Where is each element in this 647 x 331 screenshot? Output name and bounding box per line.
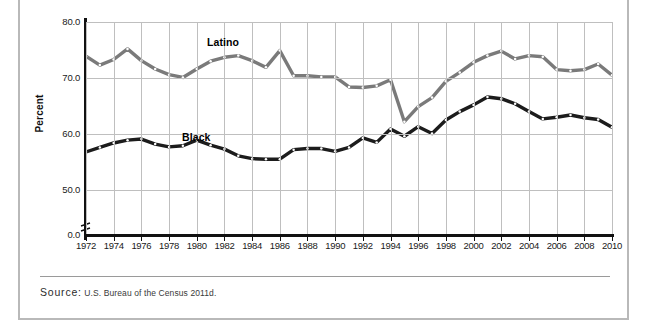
gridline-horizontal [86, 78, 612, 79]
gridline-vertical [501, 22, 502, 234]
x-tick-mark [224, 237, 225, 241]
data-point-marker [542, 118, 545, 121]
data-point-marker [348, 86, 351, 89]
gridline-vertical [224, 22, 225, 234]
x-tick-mark [335, 237, 336, 241]
x-tick-mark [584, 237, 585, 241]
data-point-marker [126, 139, 129, 142]
data-point-marker [486, 54, 489, 57]
gridline-horizontal [86, 190, 612, 191]
gridline-vertical [612, 22, 613, 234]
series-layer [86, 22, 612, 234]
figure-container: Percent 80.070.060.050.00.0 197219741976… [0, 0, 647, 331]
x-tick-mark [418, 237, 419, 241]
y-tick-label: 70.0 [40, 72, 80, 83]
x-tick-mark [529, 237, 530, 241]
source-divider [40, 276, 610, 277]
figure-frame-left [18, 0, 20, 320]
x-tick-mark [280, 237, 281, 241]
data-point-marker [431, 96, 434, 99]
x-tick-mark [141, 237, 142, 241]
source-citation: U.S. Bureau of the Census 2011d. [84, 288, 216, 298]
data-point-marker [99, 146, 102, 149]
x-tick-mark [197, 237, 198, 241]
x-tick-mark [474, 237, 475, 241]
data-point-marker [154, 68, 157, 71]
data-point-marker [375, 141, 378, 144]
gridline-vertical [86, 22, 87, 234]
figure-frame-bottom [18, 318, 629, 320]
gridline-vertical [391, 22, 392, 234]
data-point-marker [597, 63, 600, 66]
gridline-vertical [474, 22, 475, 234]
data-point-marker [569, 114, 572, 117]
x-tick-label: 2010 [590, 240, 634, 251]
x-tick-mark [446, 237, 447, 241]
data-point-marker [126, 48, 129, 51]
x-tick-mark [169, 237, 170, 241]
data-point-marker [182, 145, 185, 148]
data-point-marker [154, 143, 157, 146]
data-point-marker [209, 144, 212, 147]
figure-frame-right [627, 0, 629, 320]
gridline-vertical [363, 22, 364, 234]
data-point-marker [237, 54, 240, 57]
source-label: Source: [40, 286, 82, 298]
gridline-vertical [418, 22, 419, 234]
data-point-marker [292, 148, 295, 151]
x-tick-mark [307, 237, 308, 241]
gridline-horizontal [86, 22, 612, 23]
gridline-vertical [114, 22, 115, 234]
x-tick-mark [501, 237, 502, 241]
data-point-marker [265, 158, 268, 161]
gridline-vertical [446, 22, 447, 234]
x-tick-mark [114, 237, 115, 241]
data-point-marker [292, 75, 295, 78]
x-axis-line [84, 234, 614, 237]
x-tick-mark [391, 237, 392, 241]
gridline-vertical [584, 22, 585, 234]
data-point-marker [542, 55, 545, 58]
gridline-vertical [335, 22, 336, 234]
data-point-marker [514, 58, 517, 61]
data-point-marker [403, 135, 406, 138]
gridline-vertical [252, 22, 253, 234]
gridline-vertical [169, 22, 170, 234]
y-tick-label: 0.0 [40, 229, 80, 240]
gridline-horizontal [86, 134, 612, 135]
series-label-black: Black [182, 131, 211, 143]
y-tick-label: 60.0 [40, 128, 80, 139]
data-point-marker [458, 71, 461, 74]
gridline-vertical [557, 22, 558, 234]
plot-area [86, 22, 612, 234]
data-point-marker [569, 69, 572, 72]
data-point-marker [99, 64, 102, 66]
data-point-marker [597, 118, 600, 121]
data-point-marker [320, 147, 323, 150]
data-point-marker [348, 146, 351, 149]
x-tick-mark [363, 237, 364, 241]
x-tick-mark [252, 237, 253, 241]
gridline-vertical [280, 22, 281, 234]
gridline-vertical [197, 22, 198, 234]
series-line-black [86, 97, 612, 159]
data-point-marker [209, 60, 212, 63]
series-label-latino: Latino [207, 36, 239, 48]
y-tick-label: 50.0 [40, 184, 80, 195]
series-line-latino [86, 49, 612, 122]
data-point-marker [237, 155, 240, 158]
gridline-vertical [141, 22, 142, 234]
data-point-marker [486, 96, 489, 99]
data-point-marker [514, 103, 517, 106]
data-point-marker [458, 110, 461, 113]
data-point-marker [375, 85, 378, 88]
gridline-vertical [529, 22, 530, 234]
x-tick-mark [86, 237, 87, 241]
data-point-marker [403, 120, 406, 123]
x-tick-mark [557, 237, 558, 241]
data-point-marker [265, 66, 268, 69]
y-tick-label: 80.0 [40, 16, 80, 27]
gridline-vertical [307, 22, 308, 234]
source-note: Source: U.S. Bureau of the Census 2011d. [40, 286, 216, 298]
x-tick-mark [612, 237, 613, 241]
